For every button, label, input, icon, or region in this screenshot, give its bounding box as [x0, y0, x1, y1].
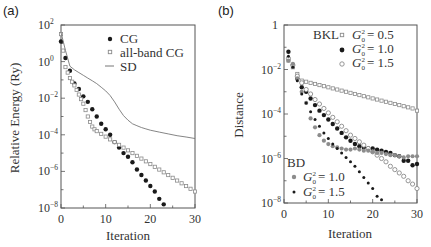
data-point	[130, 160, 134, 164]
panel-b-y-axis-title: Distance	[231, 92, 246, 138]
y-tick-label: 10	[38, 18, 50, 32]
panel-b: (b) 110−210−410−610−8 0102030 Distance I…	[218, 3, 423, 241]
data-point	[140, 157, 143, 160]
data-point	[327, 86, 330, 89]
legend-allband-cg-label: all-band CG	[120, 45, 184, 60]
data-point	[406, 179, 410, 183]
panel-a-y-axis-title: Relative Energy (Ry)	[7, 63, 22, 173]
panel-a-legend: CG all-band CG SD	[105, 31, 184, 74]
data-point	[411, 107, 414, 110]
data-point	[171, 176, 174, 179]
legend-entry-label: G	[352, 27, 362, 42]
data-point	[158, 168, 161, 171]
data-point	[415, 154, 419, 158]
x-tick-label: 0	[58, 212, 64, 226]
legend-entry-label: G	[303, 169, 313, 184]
y-tick-label: 10	[38, 91, 50, 105]
data-point	[144, 160, 147, 163]
data-point	[100, 132, 103, 135]
data-point	[88, 120, 91, 123]
data-point	[326, 117, 330, 121]
data-point	[406, 159, 410, 163]
data-point	[291, 66, 294, 69]
svg-text:= 0.5: = 0.5	[367, 27, 394, 42]
data-point	[340, 146, 344, 150]
legend-cg-label: CG	[120, 31, 138, 46]
data-point	[331, 87, 334, 90]
data-point	[336, 88, 339, 91]
svg-text:2: 2	[313, 185, 317, 193]
data-point	[162, 171, 165, 174]
y-tick-label: 10	[261, 107, 273, 121]
data-point	[367, 181, 370, 184]
data-point	[362, 95, 365, 98]
data-point	[317, 108, 321, 112]
y-tick-exponent: −6	[273, 151, 281, 160]
data-point	[380, 99, 383, 102]
data-point	[300, 92, 303, 95]
data-point	[80, 98, 83, 101]
data-point	[384, 100, 387, 103]
data-point	[309, 92, 313, 96]
data-point	[371, 97, 374, 100]
figure: (a) 10210010−210−410−610−8 0102030 Relat…	[0, 0, 431, 247]
data-point	[322, 106, 326, 110]
data-point	[313, 125, 317, 129]
data-point	[305, 101, 308, 104]
panel-b-x-ticks: 0102030	[281, 199, 423, 221]
data-point	[95, 114, 99, 118]
panel-a-label: (a)	[3, 3, 19, 18]
y-tick-label: 10	[38, 128, 50, 142]
data-point	[73, 84, 76, 87]
data-point	[371, 187, 374, 190]
data-point	[108, 133, 112, 137]
data-point	[380, 198, 383, 201]
data-point	[402, 155, 406, 159]
data-point	[344, 90, 347, 93]
data-point	[95, 130, 98, 133]
data-point	[176, 179, 179, 182]
data-point	[68, 76, 71, 79]
data-point	[340, 151, 343, 154]
data-point	[353, 136, 357, 140]
panel-a-x-axis-title: Iteration	[106, 228, 151, 243]
data-point	[336, 147, 339, 150]
data-point	[415, 162, 419, 166]
data-point	[349, 160, 352, 163]
data-point	[313, 82, 316, 85]
data-point	[314, 118, 317, 121]
data-point	[99, 122, 103, 126]
data-point	[313, 103, 317, 107]
legend-bd-10-marker-icon	[292, 175, 296, 179]
x-tick-label: 10	[322, 207, 334, 221]
data-point	[344, 135, 348, 139]
data-point	[300, 81, 304, 85]
data-point	[335, 120, 339, 124]
data-point	[407, 106, 410, 109]
svg-text:2: 2	[362, 28, 366, 36]
data-point	[82, 102, 85, 105]
legend-bd-15-marker-icon	[293, 191, 296, 194]
data-point	[379, 151, 383, 155]
data-point	[358, 93, 361, 96]
data-point	[131, 152, 134, 155]
data-point	[322, 85, 325, 88]
svg-text:= 1.5: = 1.5	[318, 184, 345, 199]
y-tick-exponent: −8	[273, 195, 281, 204]
data-point	[322, 139, 326, 143]
y-tick-label: 10	[38, 201, 50, 215]
data-point	[388, 153, 392, 157]
data-point	[393, 102, 396, 105]
data-point	[393, 153, 397, 157]
data-point	[402, 174, 406, 178]
data-point	[357, 140, 361, 144]
legend-bd-title: BD	[287, 155, 305, 170]
data-point	[77, 93, 80, 96]
data-point	[104, 135, 107, 138]
y-tick-exponent: −4	[273, 106, 281, 115]
data-point	[180, 182, 183, 185]
panel-b-legend-bkl: BKL G02= 0.5G02= 1.0G02= 1.5	[306, 27, 416, 75]
data-point	[335, 126, 339, 130]
series-cg	[59, 39, 166, 206]
data-point	[331, 115, 335, 119]
